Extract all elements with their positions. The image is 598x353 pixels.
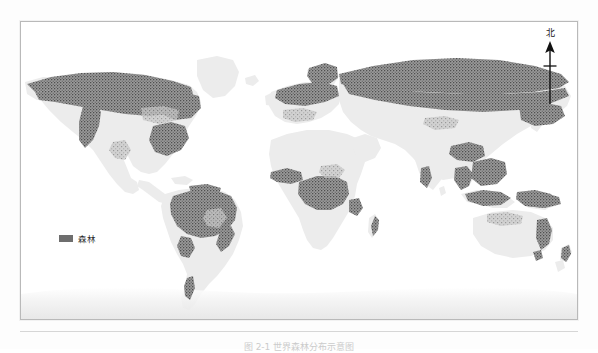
north-arrow-icon [540, 40, 560, 106]
legend-swatch-forest [59, 235, 73, 242]
north-arrow: 北 [537, 28, 563, 110]
separator-rule [20, 331, 578, 332]
legend-label-forest: 森林 [78, 232, 97, 244]
map-legend: 森林 [59, 232, 97, 244]
world-map-graphic [21, 22, 577, 319]
world-map-plate [21, 22, 577, 319]
north-arrow-label: 北 [537, 28, 563, 39]
figure-caption: 图 2-1 世界森林分布示意图 [0, 340, 598, 353]
figure-frame: 北 森林 [20, 21, 578, 320]
